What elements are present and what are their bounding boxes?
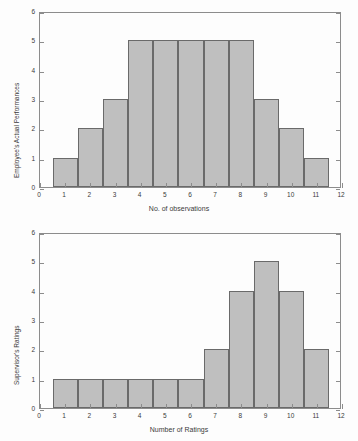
x-tick-label: 4 [132, 412, 148, 420]
y-tick-label: 3 [21, 317, 35, 325]
x-tick-mark [317, 404, 318, 408]
y-tick-mark [40, 381, 44, 382]
y-tick-mark [336, 101, 340, 102]
x-tick-mark [317, 183, 318, 187]
bar [128, 40, 153, 187]
x-tick-mark [191, 183, 192, 187]
y-tick-mark [40, 72, 44, 73]
y-tick-mark [336, 160, 340, 161]
x-tick-mark [241, 183, 242, 187]
bar [229, 40, 254, 187]
x-tick-label: 9 [258, 412, 274, 420]
y-tick-mark [336, 72, 340, 73]
bar [229, 291, 254, 408]
x-tick-label: 0 [31, 191, 47, 199]
bar [78, 128, 103, 187]
y-tick-label: 4 [21, 288, 35, 296]
y-tick-label: 0 [21, 184, 35, 192]
bar [279, 291, 304, 408]
y-tick-mark [40, 322, 44, 323]
y-tick-mark [336, 189, 340, 190]
y-tick-label: 2 [21, 346, 35, 354]
x-tick-label: 7 [207, 412, 223, 420]
y-tick-mark [336, 42, 340, 43]
x-tick-label: 6 [182, 191, 198, 199]
y-tick-mark [40, 130, 44, 131]
y-tick-mark [336, 293, 340, 294]
y-tick-label: 1 [21, 376, 35, 384]
bar [204, 40, 229, 187]
bar-series-top [40, 13, 340, 187]
x-tick-label: 1 [56, 191, 72, 199]
x-tick-mark [65, 404, 66, 408]
x-tick-label: 11 [308, 191, 324, 199]
y-tick-mark [40, 160, 44, 161]
y-tick-mark [336, 234, 340, 235]
x-axis-label-top: No. of observations [0, 205, 358, 212]
bar [254, 261, 279, 408]
y-tick-mark [40, 410, 44, 411]
y-tick-mark [40, 263, 44, 264]
x-tick-mark [216, 404, 217, 408]
x-tick-mark [292, 404, 293, 408]
y-axis-label-bottom: Supervisor's Ratings [13, 326, 20, 385]
x-tick-mark [141, 404, 142, 408]
bar [279, 128, 304, 187]
y-tick-mark [336, 381, 340, 382]
x-tick-label: 5 [157, 191, 173, 199]
x-tick-label: 6 [182, 412, 198, 420]
x-tick-mark [40, 404, 41, 408]
x-tick-label: 12 [333, 412, 349, 420]
y-tick-mark [40, 42, 44, 43]
y-tick-mark [336, 263, 340, 264]
x-tick-label: 2 [81, 412, 97, 420]
x-tick-mark [267, 404, 268, 408]
y-tick-mark [336, 410, 340, 411]
x-tick-label: 11 [308, 412, 324, 420]
y-tick-mark [336, 13, 340, 14]
y-tick-mark [40, 293, 44, 294]
x-tick-label: 8 [232, 412, 248, 420]
y-tick-mark [336, 351, 340, 352]
x-tick-label: 10 [283, 191, 299, 199]
x-tick-label: 7 [207, 191, 223, 199]
x-tick-label: 9 [258, 191, 274, 199]
y-tick-mark [336, 130, 340, 131]
x-tick-label: 12 [333, 191, 349, 199]
bar [304, 349, 329, 408]
x-tick-mark [342, 404, 343, 408]
x-tick-mark [267, 183, 268, 187]
x-tick-label: 3 [107, 412, 123, 420]
x-tick-label: 1 [56, 412, 72, 420]
y-tick-mark [336, 322, 340, 323]
x-tick-mark [191, 404, 192, 408]
y-tick-label: 4 [21, 67, 35, 75]
chart-supervisors-ratings: 0123456789101112 0123456 Number of Ratin… [0, 221, 358, 441]
x-tick-label: 10 [283, 412, 299, 420]
x-tick-label: 4 [132, 191, 148, 199]
x-tick-mark [116, 183, 117, 187]
y-axis-label-top: Employee's Actual Performances [13, 83, 20, 178]
x-tick-label: 5 [157, 412, 173, 420]
y-tick-mark [40, 234, 44, 235]
bar-series-bottom [40, 234, 340, 408]
plot-area-top [39, 12, 341, 188]
bar [204, 349, 229, 408]
y-tick-mark [40, 351, 44, 352]
x-tick-label: 2 [81, 191, 97, 199]
y-tick-label: 0 [21, 405, 35, 413]
x-tick-mark [166, 404, 167, 408]
x-tick-mark [65, 183, 66, 187]
x-tick-mark [40, 183, 41, 187]
y-tick-mark [40, 101, 44, 102]
bar [254, 99, 279, 187]
x-axis-label-bottom: Number of Ratings [0, 426, 358, 433]
chart-employee-actual-performances: 0123456789101112 0123456 No. of observat… [0, 0, 358, 221]
x-tick-label: 8 [232, 191, 248, 199]
x-tick-label: 3 [107, 191, 123, 199]
bar [178, 40, 203, 187]
x-tick-mark [292, 183, 293, 187]
x-tick-mark [90, 404, 91, 408]
y-tick-label: 5 [21, 37, 35, 45]
x-tick-mark [90, 183, 91, 187]
